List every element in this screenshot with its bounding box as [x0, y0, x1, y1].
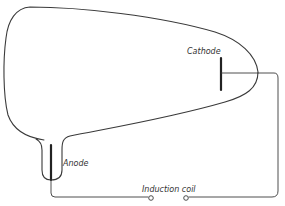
anode-label: Anode: [62, 159, 89, 168]
glass-tube-outline: [4, 7, 258, 180]
induction-coil-terminal-left: [149, 196, 154, 201]
cathode-label: Cathode: [187, 47, 221, 56]
induction-coil-terminal-right: [184, 196, 189, 201]
anode-wire: [51, 180, 148, 197]
discharge-tube-diagram: Cathode Anode Induction coil: [0, 0, 285, 206]
induction-coil-label: Induction coil: [142, 185, 196, 194]
cathode-wire: [189, 73, 278, 197]
